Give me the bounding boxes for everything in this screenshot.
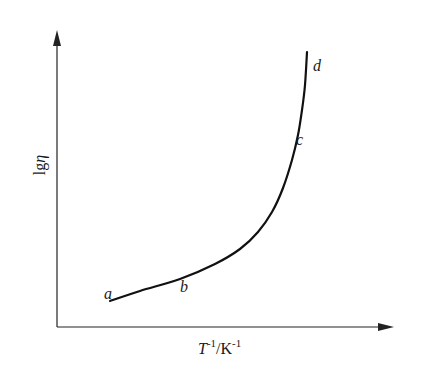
chart: abcd lgη T-1/K-1: [0, 0, 422, 378]
y-axis-label-symbol: η: [31, 155, 49, 163]
point-label-a: a: [104, 285, 112, 302]
point-label-d: d: [313, 57, 322, 74]
x-axis-label: T-1/K-1: [198, 337, 241, 357]
y-axis-label-prefix: lg: [31, 163, 49, 175]
x-axis-arrow-icon: [378, 323, 394, 331]
x-axis-label-sep: /K: [216, 340, 232, 357]
point-label-b: b: [180, 278, 188, 295]
x-axis-label-unit-sup: -1: [232, 337, 241, 349]
viscosity-curve: [110, 52, 307, 301]
y-axis-arrow-icon: [53, 30, 61, 46]
point-label-c: c: [296, 131, 303, 148]
x-axis-label-base-sup: -1: [207, 337, 216, 349]
y-axis-label: lgη: [31, 155, 49, 175]
